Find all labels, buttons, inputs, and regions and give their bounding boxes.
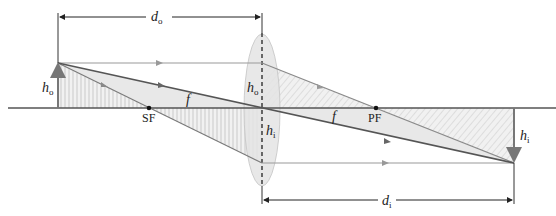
secondary-focus-point (147, 106, 152, 111)
image-height-label: hi (520, 128, 530, 145)
object-distance-label: do (151, 9, 163, 26)
ray-arrow-icon (382, 160, 389, 166)
ray-arrow-icon (384, 138, 391, 144)
object-height-label: ho (42, 80, 54, 97)
lens-ray-diagram: do di ho ho hi hi f f SF PF (0, 0, 556, 216)
image-distance-label: di (382, 193, 392, 210)
primary-focus-point (374, 106, 379, 111)
ray-arrow-icon (156, 60, 163, 66)
secondary-focus-label: SF (142, 111, 156, 125)
primary-focus-label: PF (368, 111, 382, 125)
